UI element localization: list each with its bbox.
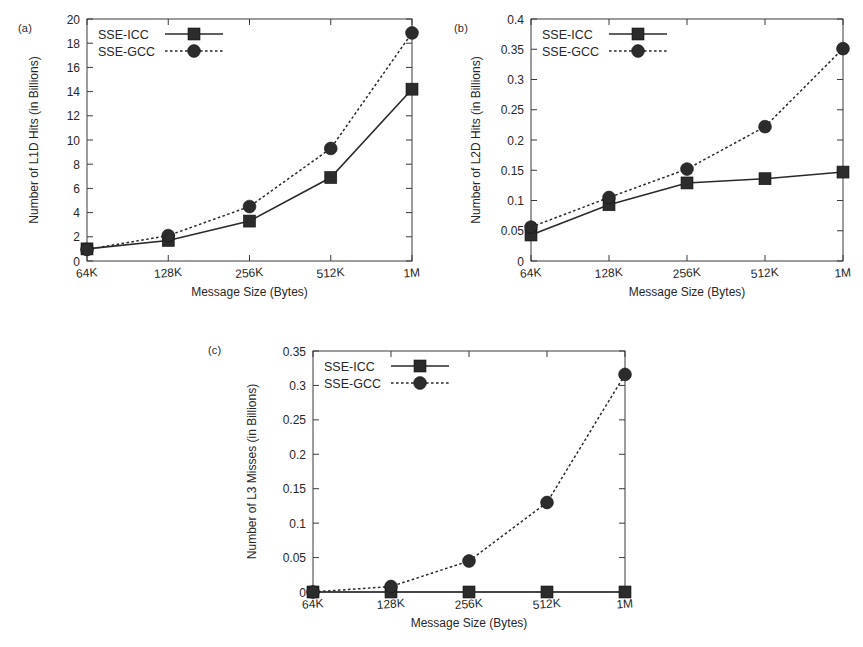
chart-legend: SSE-ICCSSE-GCC [324,360,449,391]
y-tick-label: 10 [67,134,81,148]
legend-label-sse-icc: SSE-ICC [98,28,149,42]
y-tick-label: 0.35 [501,43,525,57]
x-tick-label: 256K [454,596,483,612]
y-tick-label: 0.05 [283,551,307,565]
chart-legend: SSE-ICCSSE-GCC [542,28,667,59]
y-tick-label: 0.2 [289,448,306,462]
data-point-marker-circle [243,200,256,213]
data-point-marker-circle [837,42,850,55]
data-point-marker-square [632,28,644,40]
data-point-marker-circle [414,377,427,390]
x-tick-label: 64K [76,265,98,280]
chart-panel-b: (b) 00.050.10.150.20.250.30.350.464K128K… [440,0,863,310]
x-tick-label: 128K [154,265,183,281]
series-markers-sse-icc [525,166,849,241]
y-tick-label: 14 [67,85,81,99]
y-axis-title: Number of L2D Hits (in Billions) [469,56,483,223]
data-point-marker-circle [541,496,554,509]
x-tick-label: 512K [532,596,561,612]
y-tick-label: 0.25 [501,103,525,117]
y-tick-label: 0.2 [507,134,524,148]
chart-legend: SSE-ICCSSE-GCC [98,28,223,59]
y-tick-label: 20 [67,13,81,27]
y-tick-label: 0.1 [289,517,306,531]
data-point-marker-circle [525,221,538,234]
data-point-marker-circle [162,229,175,242]
legend-label-sse-icc: SSE-ICC [324,360,375,374]
y-axis-title: Number of L3 Misses (in Billions) [245,384,259,559]
data-point-marker-circle [632,45,645,58]
data-point-marker-circle [759,120,772,133]
x-axis-title: Message Size (Bytes) [411,616,528,630]
x-tick-label: 128K [594,265,623,281]
data-point-marker-square [463,586,475,598]
x-axis-title: Message Size (Bytes) [191,285,308,299]
y-tick-label: 2 [73,230,80,244]
y-tick-label: 0.3 [507,73,524,87]
y-tick-label: 0.25 [283,413,307,427]
data-point-marker-square [681,177,693,189]
legend-label-sse-gcc: SSE-GCC [98,45,155,59]
x-tick-label: 1M [616,596,634,611]
chart-b-line-plot: 00.050.10.150.20.250.30.350.464K128K256K… [440,0,863,310]
y-axis-title: Number of L1D Hits (in Billions) [27,56,41,223]
data-point-marker-circle [188,45,201,58]
series-markers-sse-icc [81,83,418,255]
x-tick-label: 128K [376,596,405,612]
data-point-marker-square [406,83,418,95]
x-axis-title: Message Size (Bytes) [629,285,746,299]
data-point-marker-square [244,215,256,227]
y-tick-label: 4 [73,206,80,220]
data-point-marker-circle [463,555,476,568]
series-line-sse-gcc [531,49,843,227]
data-point-marker-square [188,28,200,40]
data-point-marker-circle [385,580,398,593]
y-tick-label: 0.3 [289,379,306,393]
y-tick-label: 0.35 [283,345,307,359]
legend-label-sse-icc: SSE-ICC [542,28,593,42]
y-tick-label: 6 [73,182,80,196]
data-point-marker-circle [603,191,616,204]
x-tick-label: 256K [235,265,264,281]
y-tick-label: 16 [67,61,81,75]
data-point-marker-square [619,586,631,598]
data-point-marker-circle [324,142,337,155]
data-point-marker-circle [81,243,94,256]
x-tick-label: 64K [520,265,542,280]
data-point-marker-square [325,172,337,184]
data-point-marker-circle [406,27,419,40]
data-point-marker-square [837,166,849,178]
data-point-marker-circle [681,163,694,176]
data-point-marker-square [414,360,426,372]
y-tick-label: 12 [67,109,81,123]
data-point-marker-square [759,173,771,185]
data-point-marker-circle [619,368,632,381]
chart-a-line-plot: 0246810121416182064K128K256K512K1MMessag… [0,0,440,310]
x-tick-label: 1M [834,265,852,280]
chart-panel-a: (a) 0246810121416182064K128K256K512K1MMe… [0,0,440,310]
x-tick-label: 256K [672,265,701,281]
chart-panel-c: (c) 00.050.10.150.20.250.30.3564K128K256… [200,320,660,647]
y-tick-label: 18 [67,37,81,51]
y-tick-label: 8 [73,158,80,172]
x-tick-label: 1M [403,265,421,280]
y-tick-label: 0.4 [507,13,524,27]
chart-c-line-plot: 00.050.10.150.20.250.30.3564K128K256K512… [200,320,660,647]
y-tick-label: 0.05 [501,224,525,238]
series-markers-sse-gcc [525,42,850,233]
x-tick-label: 512K [750,265,779,281]
y-tick-label: 0.15 [501,164,525,178]
data-point-marker-square [541,586,553,598]
series-markers-sse-gcc [307,368,632,598]
x-tick-label: 512K [316,265,345,281]
legend-label-sse-gcc: SSE-GCC [542,45,599,59]
legend-label-sse-gcc: SSE-GCC [324,377,381,391]
y-tick-label: 0.1 [507,194,524,208]
data-point-marker-circle [307,586,320,599]
y-tick-label: 0.15 [283,482,307,496]
